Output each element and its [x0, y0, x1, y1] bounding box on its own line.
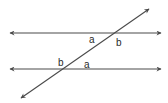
parallel-lines-diagram: a b b a	[0, 0, 168, 103]
transversal-line	[21, 9, 149, 98]
diagram-lines	[0, 0, 168, 103]
angle-label-lower-b: b	[58, 58, 64, 68]
angle-label-upper-b: b	[116, 38, 122, 48]
angle-label-upper-a: a	[89, 35, 95, 45]
angle-label-lower-a: a	[84, 60, 90, 70]
